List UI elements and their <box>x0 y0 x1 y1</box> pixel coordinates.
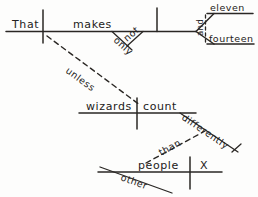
word-makes: makes <box>73 18 112 31</box>
word-differently: differently <box>180 112 231 151</box>
word-other: other <box>119 172 149 192</box>
word-fourteen: fourteen <box>209 33 254 44</box>
diagram-svg: That makes only not eleven fourteen and … <box>0 0 258 197</box>
word-eleven: eleven <box>210 2 245 13</box>
word-people: people <box>138 159 179 172</box>
word-and: and <box>195 19 205 36</box>
word-elided-verb-x: X <box>200 159 208 172</box>
sentence-diagram-canvas: That makes only not eleven fourteen and … <box>0 0 258 197</box>
word-that: That <box>11 18 39 31</box>
word-than: than <box>157 137 183 158</box>
word-count: count <box>143 100 177 113</box>
word-wizards: wizards <box>86 100 132 113</box>
